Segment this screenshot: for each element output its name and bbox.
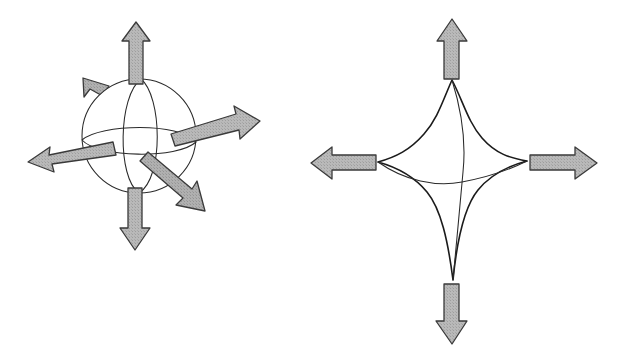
diagram-svg xyxy=(0,0,617,356)
figure-canvas xyxy=(0,0,617,356)
background xyxy=(0,0,617,356)
